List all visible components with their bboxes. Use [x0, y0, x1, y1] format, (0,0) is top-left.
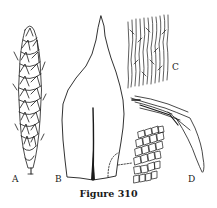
alar-cells-drawing — [130, 124, 170, 184]
shoot-drawing — [13, 26, 46, 174]
panel-label-a: A — [12, 175, 19, 184]
elongate-cells-drawing — [127, 14, 170, 88]
botanical-illustration — [0, 0, 217, 208]
figure-310: A B C D Figure 310 — [0, 0, 217, 208]
leaf-drawing — [62, 16, 132, 180]
figure-caption: Figure 310 — [0, 188, 217, 199]
panel-label-c: C — [172, 63, 179, 72]
panel-label-b: B — [55, 175, 62, 184]
panel-label-d: D — [188, 175, 195, 184]
